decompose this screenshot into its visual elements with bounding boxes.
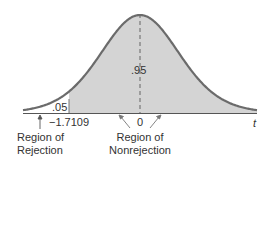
alpha-label: .05 xyxy=(52,101,67,113)
rejection-label-line2: Rejection xyxy=(17,144,64,156)
zero-tick-label: 0 xyxy=(137,116,143,128)
nonrejection-left-arrow-icon xyxy=(119,115,130,128)
critical-value-tick-label: −1.7109 xyxy=(49,116,89,128)
rejection-region-label: Region of Rejection xyxy=(17,131,64,156)
nonrejection-label-line2: Nonrejection xyxy=(105,144,175,156)
confidence-label: .95 xyxy=(131,64,146,76)
nonrejection-region-label: Region of Nonrejection xyxy=(105,131,175,156)
rejection-label-line1: Region of xyxy=(17,131,64,143)
rejection-arrow-icon xyxy=(38,115,42,129)
x-axis-label: t xyxy=(253,117,256,129)
nonrejection-right-arrow-icon xyxy=(150,115,161,128)
nonrejection-label-line1: Region of xyxy=(105,131,175,143)
